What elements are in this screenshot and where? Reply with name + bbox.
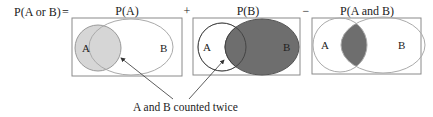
minus-sign: −	[303, 4, 310, 18]
venn-diagram-figure: P(A or B) = P(A) + P(B) − P(A and B) A B…	[0, 0, 433, 117]
label-a: A	[203, 41, 211, 53]
panel-title-pb: P(B)	[237, 4, 260, 18]
panel-pb: A B	[193, 18, 300, 75]
annotation-counted-twice: A and B counted twice	[133, 101, 238, 113]
panel-title-pa: P(A)	[115, 4, 138, 18]
label-b: B	[160, 42, 167, 54]
label-b: B	[398, 39, 405, 51]
plus-sign: +	[184, 4, 191, 18]
label-b: B	[283, 41, 290, 53]
panel-title-pab: P(A and B)	[340, 4, 394, 18]
equation-lhs: P(A or B)	[14, 5, 61, 19]
label-a: A	[82, 42, 90, 54]
panel-pab: A B	[312, 17, 425, 74]
equals-sign: =	[62, 5, 69, 19]
label-a: A	[321, 39, 329, 51]
panel-pa: A B	[72, 18, 182, 76]
